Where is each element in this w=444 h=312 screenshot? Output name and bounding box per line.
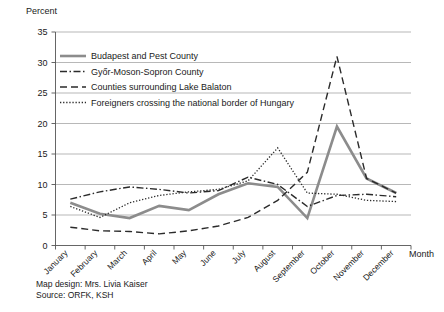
legend-label-2: Counties surrounding Lake Balaton xyxy=(91,82,232,92)
legend-label-3: Foreigners crossing the national border … xyxy=(91,98,295,108)
x-tick-label-december: December xyxy=(361,248,396,283)
chart-figure: Percent Month 05101520253035 JanuaryFebr… xyxy=(0,0,444,312)
y-tick-label: 20 xyxy=(37,119,47,129)
x-tick-label-april: April xyxy=(139,248,158,267)
x-tick-label-september: September xyxy=(270,248,307,285)
x-tick-label-august: August xyxy=(251,247,277,273)
x-tick-label-may: May xyxy=(170,247,189,266)
series-line-1 xyxy=(70,177,396,206)
x-tick-label-july: July xyxy=(230,247,248,265)
footer-line-source: Source: ORFK, KSH xyxy=(36,290,148,301)
series-line-3 xyxy=(70,148,396,218)
y-tick-labels-group: 05101520253035 xyxy=(37,27,47,251)
y-tick-label: 15 xyxy=(37,149,47,159)
footer-credits: Map design: Mrs. Livia Kaiser Source: OR… xyxy=(36,279,148,301)
x-tick-label-february: February xyxy=(68,247,100,279)
x-tick-label-november: November xyxy=(331,248,366,283)
y-tick-label: 0 xyxy=(42,241,47,251)
y-tick-label: 5 xyxy=(42,210,47,220)
y-tick-label: 35 xyxy=(37,27,47,37)
y-tick-label: 10 xyxy=(37,180,47,190)
x-tick-label-october: October xyxy=(308,248,337,277)
legend-label-0: Budapest and Pest County xyxy=(91,51,199,61)
x-tick-label-june: June xyxy=(198,248,218,268)
footer-line-map-design: Map design: Mrs. Livia Kaiser xyxy=(36,279,148,290)
y-tick-label: 25 xyxy=(37,88,47,98)
x-tick-label-january: January xyxy=(41,247,70,276)
legend-group: Budapest and Pest CountyGyőr-Moson-Sopro… xyxy=(60,51,295,108)
series-line-0 xyxy=(70,127,396,219)
chart-svg: 05101520253035 JanuaryFebruaryMarchApril… xyxy=(0,0,444,312)
legend-label-1: Győr-Moson-Sopron County xyxy=(91,67,204,77)
x-tick-label-march: March xyxy=(105,248,129,272)
y-tick-label: 30 xyxy=(37,58,47,68)
